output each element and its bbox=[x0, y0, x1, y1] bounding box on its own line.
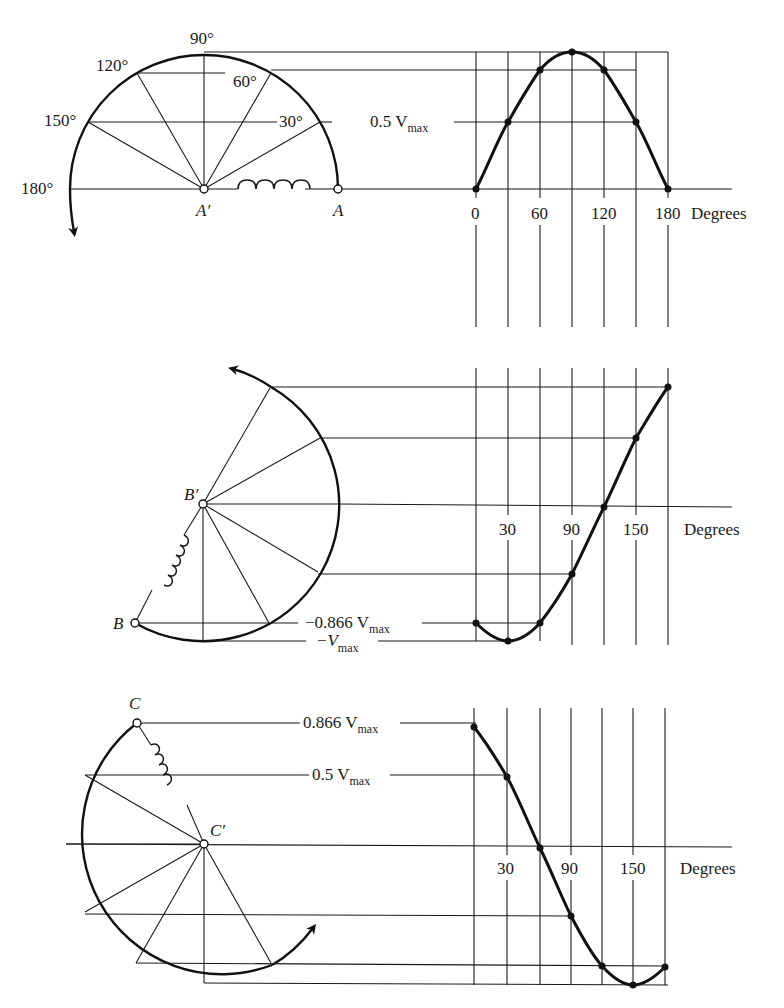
ref-label-0.5vmax: 0.5 Vmax bbox=[370, 112, 428, 135]
three-phase-generation-diagram: 90° 120° 60° 150° 30° 180° A′ A 0.5 Vmax… bbox=[0, 0, 784, 1008]
x-tick-60: 60 bbox=[531, 204, 548, 223]
angle-label-30: 30° bbox=[279, 112, 303, 131]
node-a-label: A bbox=[332, 201, 344, 220]
node-a bbox=[334, 185, 342, 193]
x-tick-30: 30 bbox=[499, 520, 516, 539]
angle-label-120: 120° bbox=[96, 56, 128, 75]
x-tick-150: 150 bbox=[620, 859, 646, 878]
x-tick-90: 90 bbox=[561, 859, 578, 878]
node-a-prime bbox=[200, 185, 208, 193]
x-tick-30: 30 bbox=[497, 859, 514, 878]
phase-b-phasor: B′ B −0.866 Vmax −Vmax bbox=[113, 369, 732, 655]
node-b-prime-label: B′ bbox=[184, 485, 198, 504]
x-axis-unit: Degrees bbox=[680, 859, 736, 878]
node-b bbox=[131, 619, 139, 627]
phase-c-waveform: 30 90 150 Degrees bbox=[471, 708, 736, 989]
node-b-prime bbox=[199, 500, 207, 508]
rotation-arrow-icon bbox=[70, 189, 74, 232]
rotation-arrow-icon bbox=[272, 928, 313, 965]
angle-label-90: 90° bbox=[190, 29, 214, 48]
node-c-prime bbox=[200, 840, 208, 848]
x-tick-0: 0 bbox=[471, 204, 480, 223]
ref-label-neg-vmax: −Vmax bbox=[316, 631, 359, 655]
node-c bbox=[133, 719, 141, 727]
rotation-arrow-icon bbox=[233, 369, 271, 387]
x-tick-180: 180 bbox=[655, 204, 681, 223]
node-b-label: B bbox=[113, 614, 124, 633]
node-c-prime-label: C′ bbox=[210, 821, 225, 840]
x-axis-unit: Degrees bbox=[691, 204, 747, 223]
x-tick-120: 120 bbox=[591, 204, 617, 223]
x-tick-150: 150 bbox=[623, 520, 649, 539]
angle-label-150: 150° bbox=[44, 111, 76, 130]
phase-b-rotation-arc bbox=[135, 387, 339, 641]
x-axis-unit: Degrees bbox=[684, 520, 740, 539]
ref-label-0.866vmax: 0.866 Vmax bbox=[303, 713, 378, 736]
ref-label-0.5vmax: 0.5 Vmax bbox=[312, 765, 370, 788]
angle-label-60: 60° bbox=[233, 72, 257, 91]
x-tick-90: 90 bbox=[563, 520, 580, 539]
phase-a-waveform: 0 60 120 180 Degrees bbox=[471, 49, 747, 328]
phase-c-phasor: C C′ 0.866 Vmax 0.5 Vmax bbox=[66, 694, 732, 985]
node-c-label: C bbox=[129, 694, 141, 713]
phase-a-phasor: 90° 120° 60° 150° 30° 180° A′ A 0.5 Vmax bbox=[21, 29, 732, 232]
phase-c-rotation-arc bbox=[82, 723, 272, 974]
node-a-prime-label: A′ bbox=[195, 201, 210, 220]
angle-label-180: 180° bbox=[21, 179, 53, 198]
